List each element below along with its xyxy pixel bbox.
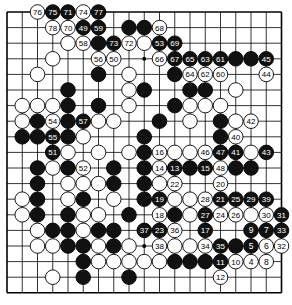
black-stone[interactable]: 73 [106, 36, 121, 51]
white-stone[interactable] [137, 254, 152, 269]
black-stone[interactable] [30, 192, 45, 207]
black-stone[interactable]: 27 [198, 208, 213, 223]
black-stone[interactable] [106, 223, 121, 238]
black-stone[interactable] [137, 20, 152, 35]
white-stone[interactable]: 32 [274, 239, 289, 254]
black-stone[interactable]: 45 [259, 52, 274, 67]
black-stone[interactable] [228, 239, 243, 254]
black-stone[interactable] [61, 98, 76, 113]
white-stone[interactable]: 68 [152, 20, 167, 35]
white-stone[interactable] [122, 83, 137, 98]
white-stone[interactable]: 56 [91, 52, 106, 67]
go-board-svg[interactable]: 7675717477787049596858737253695650666765… [0, 0, 292, 305]
white-stone[interactable] [91, 239, 106, 254]
white-stone[interactable]: 76 [30, 5, 45, 20]
white-stone[interactable] [91, 114, 106, 129]
white-stone[interactable]: 12 [213, 270, 228, 285]
black-stone[interactable] [213, 114, 228, 129]
black-stone[interactable] [76, 239, 91, 254]
black-stone[interactable]: 71 [61, 5, 76, 20]
black-stone[interactable] [91, 67, 106, 82]
black-stone[interactable]: 43 [259, 145, 274, 160]
black-stone[interactable] [76, 270, 91, 285]
black-stone[interactable] [45, 223, 60, 238]
black-stone[interactable] [106, 239, 121, 254]
black-stone[interactable]: 41 [228, 145, 243, 160]
black-stone[interactable]: 21 [213, 192, 228, 207]
white-stone[interactable] [30, 67, 45, 82]
black-stone[interactable] [137, 145, 152, 160]
white-stone[interactable] [122, 98, 137, 113]
black-stone[interactable] [137, 130, 152, 145]
black-stone[interactable] [122, 208, 137, 223]
white-stone[interactable]: 38 [152, 239, 167, 254]
white-stone[interactable] [152, 254, 167, 269]
black-stone[interactable]: 65 [183, 52, 198, 67]
white-stone[interactable]: 22 [167, 176, 182, 191]
white-stone[interactable]: 10 [228, 254, 243, 269]
white-stone[interactable]: 52 [76, 161, 91, 176]
black-stone[interactable] [61, 114, 76, 129]
black-stone[interactable]: 35 [213, 239, 228, 254]
white-stone[interactable] [30, 98, 45, 113]
black-stone[interactable]: 69 [167, 36, 182, 51]
white-stone[interactable] [106, 192, 121, 207]
black-stone[interactable] [167, 208, 182, 223]
black-stone[interactable]: 77 [91, 5, 106, 20]
black-stone[interactable] [137, 161, 152, 176]
white-stone[interactable] [61, 176, 76, 191]
white-stone[interactable] [61, 36, 76, 51]
white-stone[interactable] [15, 208, 30, 223]
white-stone[interactable]: 34 [198, 239, 213, 254]
black-stone[interactable] [76, 254, 91, 269]
black-stone[interactable]: 11 [213, 254, 228, 269]
white-stone[interactable]: 20 [213, 176, 228, 191]
black-stone[interactable] [137, 83, 152, 98]
black-stone[interactable] [61, 161, 76, 176]
black-stone[interactable]: 13 [167, 161, 182, 176]
black-stone[interactable]: 37 [137, 223, 152, 238]
white-stone[interactable]: 54 [45, 114, 60, 129]
white-stone[interactable] [122, 145, 137, 160]
white-stone[interactable] [15, 114, 30, 129]
black-stone[interactable]: 63 [198, 52, 213, 67]
black-stone[interactable] [183, 161, 198, 176]
white-stone[interactable]: 36 [167, 223, 182, 238]
black-stone[interactable] [228, 52, 243, 67]
black-stone[interactable] [61, 83, 76, 98]
black-stone[interactable] [137, 176, 152, 191]
white-stone[interactable] [244, 145, 259, 160]
white-stone[interactable]: 74 [76, 5, 91, 20]
black-stone[interactable] [213, 130, 228, 145]
white-stone[interactable] [198, 98, 213, 113]
black-stone[interactable] [91, 98, 106, 113]
white-stone[interactable] [91, 176, 106, 191]
white-stone[interactable] [30, 223, 45, 238]
white-stone[interactable] [122, 239, 137, 254]
black-stone[interactable] [167, 67, 182, 82]
black-stone[interactable] [152, 114, 167, 129]
black-stone[interactable] [30, 114, 45, 129]
black-stone[interactable] [76, 192, 91, 207]
white-stone[interactable] [91, 208, 106, 223]
white-stone[interactable] [167, 145, 182, 160]
white-stone[interactable]: 60 [213, 67, 228, 82]
black-stone[interactable]: 57 [76, 114, 91, 129]
white-stone[interactable] [122, 254, 137, 269]
black-stone[interactable] [61, 130, 76, 145]
white-stone[interactable] [167, 192, 182, 207]
white-stone[interactable]: 70 [61, 20, 76, 35]
white-stone[interactable] [91, 145, 106, 160]
white-stone[interactable]: 78 [45, 20, 60, 35]
black-stone[interactable] [30, 208, 45, 223]
white-stone[interactable]: 66 [152, 52, 167, 67]
white-stone[interactable] [183, 192, 198, 207]
white-stone[interactable]: 44 [259, 67, 274, 82]
black-stone[interactable]: 7 [259, 223, 274, 238]
black-stone[interactable]: 51 [45, 145, 60, 160]
black-stone[interactable] [30, 130, 45, 145]
go-board[interactable]: 7675717477787049596858737253695650666765… [0, 0, 292, 305]
black-stone[interactable]: 39 [259, 192, 274, 207]
black-stone[interactable]: 17 [198, 223, 213, 238]
black-stone[interactable] [61, 208, 76, 223]
